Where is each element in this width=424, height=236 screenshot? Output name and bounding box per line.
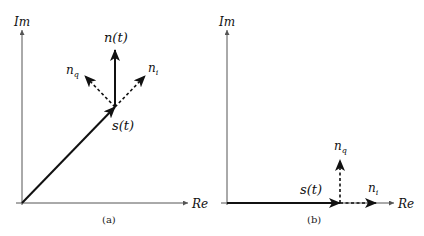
- noise-inphase-vector: [115, 76, 145, 107]
- caption-a: (a): [102, 214, 116, 225]
- noise-quadrature-label: nq: [66, 63, 79, 79]
- noise-inphase-label: ni: [368, 181, 379, 197]
- signal-label: s(t): [300, 182, 322, 197]
- panel-b: Im Re s(t) nq ni (b): [218, 15, 414, 225]
- noise-quadrature-label: nq: [334, 139, 347, 155]
- re-axis-label: Re: [397, 197, 414, 211]
- panel-a: Im Re n(t) s(t) nq ni (a): [13, 15, 208, 225]
- noise-inphase-label: ni: [148, 61, 159, 77]
- phasor-diagram: Im Re n(t) s(t) nq ni (a) Im Re s(t) nq …: [0, 0, 424, 236]
- noise-label: n(t): [104, 30, 128, 45]
- signal-label: s(t): [112, 118, 134, 133]
- re-axis-label: Re: [191, 197, 208, 211]
- signal-vector: [22, 107, 115, 203]
- im-axis-label: Im: [13, 15, 30, 29]
- im-axis-label: Im: [218, 15, 235, 29]
- noise-quadrature-vector: [85, 76, 115, 107]
- caption-b: (b): [307, 214, 321, 225]
